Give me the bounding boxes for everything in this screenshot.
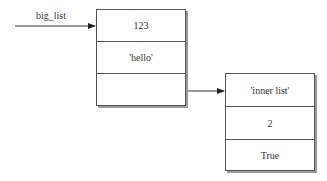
- inner-list-cell-0: 'inner list': [226, 74, 314, 107]
- outer-list-cell-0: 123: [97, 10, 185, 42]
- inner-list-cell-2: True: [226, 140, 314, 170]
- outer-list-cell-1: 'hello': [97, 42, 185, 74]
- variable-name-label: big_list: [36, 10, 66, 21]
- inner-list-cell-1: 2: [226, 107, 314, 140]
- inner-list-box: 'inner list' 2 True: [225, 73, 315, 171]
- outer-list-box: 123 'hello': [96, 9, 186, 106]
- outer-list-cell-2-reference: [97, 74, 185, 105]
